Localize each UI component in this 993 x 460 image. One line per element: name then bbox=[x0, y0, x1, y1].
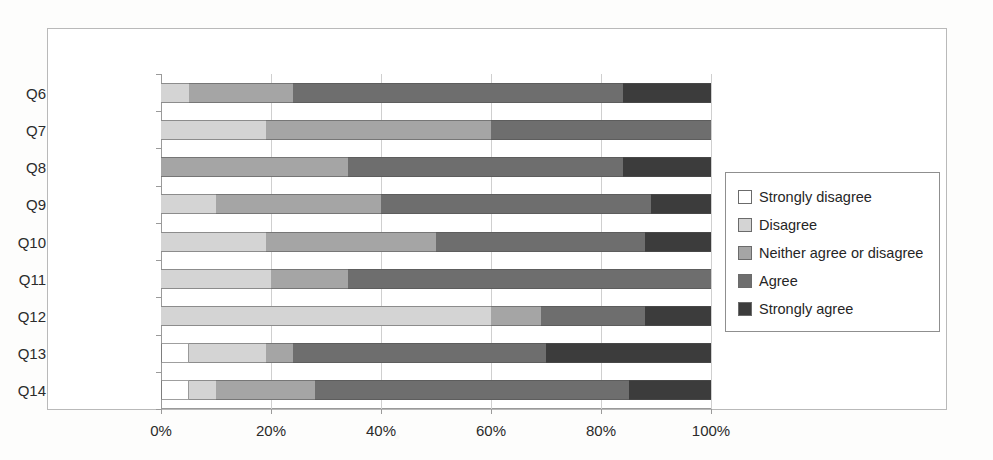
x-axis-tick-label: 40% bbox=[366, 422, 396, 439]
bar-segment bbox=[541, 306, 646, 326]
legend-item-neither-agree-or-disagree: Neither agree or disagree bbox=[738, 239, 931, 267]
legend-item-agree: Agree bbox=[738, 267, 931, 295]
gridline bbox=[711, 74, 712, 409]
legend-swatch-icon bbox=[738, 190, 752, 204]
category-label: Q13 bbox=[18, 345, 46, 362]
x-axis-tick-label: 100% bbox=[692, 422, 730, 439]
x-axis-tick-label: 60% bbox=[476, 422, 506, 439]
stacked-bar bbox=[161, 343, 711, 363]
bar-segment bbox=[189, 343, 266, 363]
x-axis-tick-label: 20% bbox=[256, 422, 286, 439]
x-axis-tick bbox=[491, 409, 492, 414]
stacked-bar bbox=[161, 306, 711, 326]
legend-label: Disagree bbox=[759, 217, 817, 233]
stacked-bar bbox=[161, 83, 711, 103]
category-label: Q11 bbox=[19, 270, 46, 287]
plot-area: 0%20%40%60%80%100% Q6Q7Q8Q9Q10Q11Q12Q13Q… bbox=[161, 74, 711, 409]
legend-item-disagree: Disagree bbox=[738, 211, 931, 239]
bar-segment bbox=[436, 232, 645, 252]
y-axis-tick bbox=[156, 372, 161, 373]
stacked-bar bbox=[161, 269, 711, 289]
y-axis-tick bbox=[156, 148, 161, 149]
stacked-bar bbox=[161, 120, 711, 140]
bar-segment bbox=[161, 306, 491, 326]
stacked-bar bbox=[161, 380, 711, 400]
bar-segment bbox=[623, 83, 711, 103]
x-axis bbox=[161, 408, 711, 409]
legend-item-strongly-agree: Strongly agree bbox=[738, 295, 931, 323]
bar-segment bbox=[629, 380, 712, 400]
x-axis-tick bbox=[601, 409, 602, 414]
category-label: Q14 bbox=[18, 382, 46, 399]
legend-swatch-icon bbox=[738, 218, 752, 232]
bar-segment bbox=[216, 380, 315, 400]
bar-segment bbox=[266, 120, 492, 140]
bar-segment bbox=[348, 157, 623, 177]
bar-segment bbox=[315, 380, 629, 400]
x-axis-tick-label: 80% bbox=[586, 422, 616, 439]
x-axis-tick bbox=[711, 409, 712, 414]
legend-swatch-icon bbox=[738, 246, 752, 260]
legend-swatch-icon bbox=[738, 274, 752, 288]
bar-segment bbox=[161, 194, 216, 214]
bar-segment bbox=[161, 269, 271, 289]
category-label: Q9 bbox=[26, 196, 46, 213]
chart-frame: 0%20%40%60%80%100% Q6Q7Q8Q9Q10Q11Q12Q13Q… bbox=[47, 28, 947, 410]
bar-segment bbox=[189, 83, 294, 103]
y-axis-tick bbox=[156, 260, 161, 261]
y-axis-tick bbox=[156, 74, 161, 75]
bar-segment bbox=[161, 380, 189, 400]
x-axis-tick-label: 0% bbox=[150, 422, 172, 439]
bar-segment bbox=[161, 120, 266, 140]
legend-label: Strongly disagree bbox=[759, 189, 872, 205]
legend-swatch-icon bbox=[738, 302, 752, 316]
legend-label: Neither agree or disagree bbox=[759, 245, 923, 261]
bar-segment bbox=[161, 157, 348, 177]
bar-segment bbox=[348, 269, 711, 289]
bar-segment bbox=[381, 194, 651, 214]
x-axis-tick bbox=[381, 409, 382, 414]
bar-segment bbox=[546, 343, 711, 363]
bar-segment bbox=[651, 194, 712, 214]
legend-item-strongly-disagree: Strongly disagree bbox=[738, 183, 931, 211]
category-label: Q7 bbox=[26, 121, 46, 138]
y-axis-tick bbox=[156, 297, 161, 298]
bar-segment bbox=[216, 194, 381, 214]
legend-label: Agree bbox=[759, 273, 798, 289]
bar-segment bbox=[645, 232, 711, 252]
bar-segment bbox=[266, 343, 294, 363]
bar-segment bbox=[161, 83, 189, 103]
y-axis-tick bbox=[156, 409, 161, 410]
stacked-bar bbox=[161, 157, 711, 177]
bar-segment bbox=[293, 83, 623, 103]
bar-segment bbox=[645, 306, 711, 326]
stacked-bar bbox=[161, 232, 711, 252]
y-axis-tick bbox=[156, 335, 161, 336]
bar-segment bbox=[161, 232, 266, 252]
chart-legend: Strongly disagree Disagree Neither agree… bbox=[725, 172, 940, 332]
category-label: Q8 bbox=[26, 159, 46, 176]
category-label: Q6 bbox=[26, 84, 46, 101]
category-label: Q12 bbox=[18, 307, 46, 324]
x-axis-tick bbox=[271, 409, 272, 414]
x-axis-tick bbox=[161, 409, 162, 414]
stacked-bar bbox=[161, 194, 711, 214]
y-axis-tick bbox=[156, 111, 161, 112]
y-axis-tick bbox=[156, 186, 161, 187]
bar-segment bbox=[293, 343, 546, 363]
bar-segment bbox=[271, 269, 348, 289]
category-label: Q10 bbox=[18, 233, 46, 250]
bar-segment bbox=[491, 120, 711, 140]
bar-segment bbox=[266, 232, 437, 252]
bar-segment bbox=[189, 380, 217, 400]
y-axis-tick bbox=[156, 223, 161, 224]
bar-segment bbox=[491, 306, 541, 326]
legend-label: Strongly agree bbox=[759, 301, 853, 317]
bar-segment bbox=[161, 343, 189, 363]
bar-segment bbox=[623, 157, 711, 177]
